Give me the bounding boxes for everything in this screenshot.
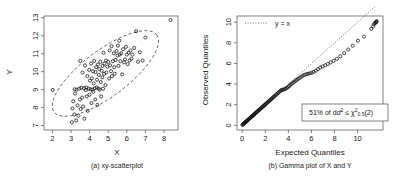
x-tick-label: 3 — [69, 134, 73, 143]
x-tick-label: 5 — [106, 134, 110, 143]
x-tick-label: 7 — [143, 134, 147, 143]
annotation-box-chi-square: 51% of dd2 ≤ χ20.5(2) — [302, 104, 388, 121]
x-tick-label: 2 — [50, 134, 54, 143]
panel-a-svg: 78910111213 2345678 Y X (a) xy-scatterpl… — [0, 0, 196, 176]
panel-b-svg: 0246810 0246810 y = x 51% of dd2 ≤ χ20.5… — [197, 0, 393, 176]
y-tick-label: 12 — [31, 32, 40, 40]
x-tick-label: 6 — [309, 134, 313, 143]
panel-a-scatterplot: 78910111213 2345678 Y X (a) xy-scatterpl… — [0, 0, 196, 176]
x-tick-label: 0 — [240, 134, 244, 143]
y-tick-label: 0 — [224, 123, 233, 127]
x-tick-label: 2 — [263, 134, 267, 143]
y-tick-label: 10 — [224, 18, 233, 26]
panel-a-y-axis-label: Y — [5, 69, 14, 75]
x-tick-label: 6 — [125, 134, 129, 143]
legend-label: y = x — [275, 20, 290, 28]
annotation-prefix: 51% of d — [309, 109, 337, 116]
x-tick-label: 8 — [332, 134, 336, 143]
y-tick-label: 11 — [31, 50, 40, 58]
y-tick-label: 4 — [224, 82, 233, 86]
annotation-suffix: (2) — [364, 109, 373, 117]
y-tick-label: 8 — [224, 41, 233, 45]
y-tick-label: 7 — [31, 123, 40, 127]
x-tick-label: 10 — [353, 134, 361, 143]
panel-b-x-axis-label: Expected Quantiles — [275, 148, 344, 157]
y-tick-label: 10 — [31, 67, 40, 75]
panel-b-y-axis-label: Observed Quantiles — [201, 35, 210, 106]
x-tick-label: 4 — [88, 134, 92, 143]
y-tick-label: 13 — [31, 14, 40, 22]
panel-a-caption: (a) xy-scatterplot — [91, 162, 143, 170]
x-tick-label: 4 — [286, 134, 290, 143]
y-tick-label: 2 — [224, 103, 233, 107]
y-tick-label: 9 — [31, 88, 40, 92]
x-tick-label: 8 — [162, 134, 166, 143]
panel-a-x-axis-label: X — [114, 148, 120, 157]
y-tick-label: 6 — [224, 61, 233, 65]
figure-container: 78910111213 2345678 Y X (a) xy-scatterpl… — [0, 0, 393, 176]
y-tick-label: 8 — [31, 105, 40, 109]
panel-b-caption: (b) Gamma plot of X and Y — [268, 162, 351, 170]
panel-b-gamma-plot: 0246810 0246810 y = x 51% of dd2 ≤ χ20.5… — [197, 0, 393, 176]
annotation-mid: ≤ χ — [343, 109, 355, 117]
